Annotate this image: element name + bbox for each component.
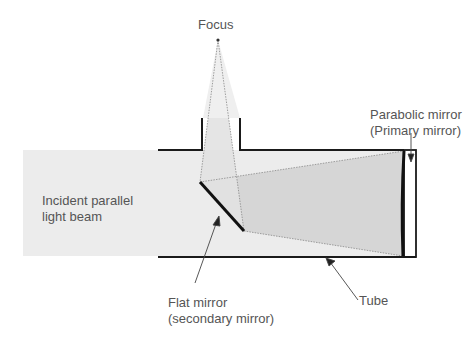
focus-label: Focus bbox=[198, 17, 233, 33]
flat-mirror-label-line2: (secondary mirror) bbox=[168, 311, 274, 327]
parabolic-mirror-label-line1: Parabolic mirror bbox=[370, 107, 462, 123]
tube-label: Tube bbox=[359, 293, 388, 309]
incident-beam-label: Incident parallel light beam bbox=[42, 193, 133, 225]
focus-point bbox=[216, 38, 219, 41]
parabolic-mirror-label-line2: (Primary mirror) bbox=[370, 123, 462, 139]
flat-mirror-label-line1: Flat mirror bbox=[168, 295, 274, 311]
flat-mirror-label: Flat mirror (secondary mirror) bbox=[168, 295, 274, 327]
focus-cone-upper bbox=[203, 40, 240, 118]
incident-beam-label-line2: light beam bbox=[42, 209, 133, 225]
incident-beam-label-line1: Incident parallel bbox=[42, 193, 133, 209]
parabolic-mirror-label: Parabolic mirror (Primary mirror) bbox=[370, 107, 462, 139]
parabolic-mirror bbox=[402, 151, 404, 256]
telescope-diagram bbox=[0, 0, 476, 338]
